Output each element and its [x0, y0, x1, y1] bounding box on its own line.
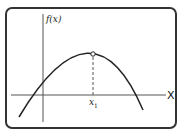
- maximum-point: [91, 52, 95, 56]
- x1-label-sub: 1: [94, 102, 98, 109]
- frame: [6, 8, 176, 128]
- x-axis-label: X: [167, 89, 175, 102]
- y-axis-label: f(x): [45, 14, 62, 24]
- function-graph: f(x) X x 1: [0, 0, 182, 134]
